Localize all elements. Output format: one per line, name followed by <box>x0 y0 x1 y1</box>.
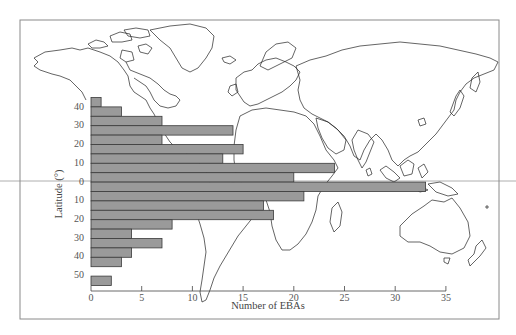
y-tick-label: 10 <box>74 157 84 168</box>
y-tick-label: 50 <box>74 269 84 280</box>
y-tick-label: 20 <box>74 213 84 224</box>
bar-0 <box>91 182 426 191</box>
y-tick-label: 40 <box>74 101 84 112</box>
bar-30S <box>91 239 162 248</box>
y-tick-label: 20 <box>74 138 84 149</box>
y-tick-label: 30 <box>74 119 84 130</box>
y-axis-title: Latitude (°) <box>53 169 65 218</box>
bar-10N <box>91 163 334 172</box>
bar-35S <box>91 248 132 257</box>
y-tick-label: 30 <box>74 232 84 243</box>
y-tick-label: 0 <box>79 176 84 187</box>
bar-35N <box>91 116 162 125</box>
bar-15S <box>91 210 274 219</box>
bar-20N <box>91 145 243 154</box>
bar-5S <box>91 192 304 201</box>
bar-40S <box>91 257 121 266</box>
bar-15N <box>91 154 223 163</box>
x-tick-label: 5 <box>139 292 144 303</box>
bar-40N <box>91 107 121 116</box>
bar-25S <box>91 229 132 238</box>
y-axis: 4030201001020304050 Latitude (°) <box>53 101 84 280</box>
bar-25N <box>91 135 162 144</box>
y-tick-label: 10 <box>74 194 84 205</box>
x-axis-title: Number of EBAs <box>231 300 305 311</box>
bar-45N <box>91 98 101 107</box>
bar-50S <box>91 276 111 285</box>
x-tick-label: 0 <box>89 292 94 303</box>
x-tick-label: 30 <box>390 292 400 303</box>
bar-20S <box>91 220 172 229</box>
ebas-latitude-chart: 05101520253035 Number of EBAs 4030201001… <box>0 0 516 335</box>
x-axis: 05101520253035 Number of EBAs <box>89 286 451 311</box>
x-tick-label: 35 <box>441 292 451 303</box>
bar-5N <box>91 173 294 182</box>
bar-30N <box>91 126 233 135</box>
x-tick-label: 10 <box>187 292 197 303</box>
bar-10S <box>91 201 263 210</box>
y-tick-label: 40 <box>74 250 84 261</box>
bar-series <box>91 98 426 286</box>
x-tick-label: 25 <box>340 292 350 303</box>
